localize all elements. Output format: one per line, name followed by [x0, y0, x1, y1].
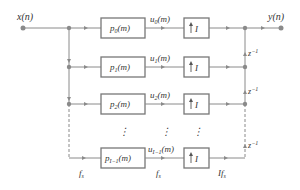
output-node: [279, 26, 284, 31]
svg-text:z−1: z−1: [247, 140, 258, 150]
signal-label: u1(m): [150, 53, 170, 64]
output-label: y(n): [267, 11, 285, 23]
branch-1: p1(m) u1(m) I: [69, 53, 245, 77]
branch-last: pI−1(m) uI−1(m) I: [69, 144, 245, 168]
ellipsis: ⋮: [193, 126, 203, 137]
signal-label: u2(m): [150, 90, 170, 101]
delay-label: z−1: [247, 86, 258, 96]
rate-label-middle: fs: [156, 168, 162, 179]
signal-label: u0(m): [150, 14, 170, 25]
rate-label-input: fs: [79, 168, 85, 179]
svg-text:z−1: z−1: [247, 86, 258, 96]
ellipsis: ⋮: [119, 126, 129, 137]
svg-text:z−1: z−1: [247, 48, 258, 58]
svg-text:p2(m): p2(m): [109, 99, 130, 110]
delay-label: z−1: [247, 140, 258, 150]
polyphase-diagram: x(n) y(n) z−1 z−1 z−1 p0(m) u0(m): [0, 0, 300, 190]
svg-text:p1(m): p1(m): [109, 62, 130, 73]
input-label: x(n): [16, 11, 34, 23]
ellipsis: ⋮: [161, 126, 171, 137]
signal-label: uI−1(m): [148, 144, 174, 155]
rate-label-output: Ifs: [217, 168, 227, 179]
delay-label: z−1: [247, 48, 258, 58]
branch-2: p2(m) u2(m) I: [69, 90, 245, 114]
svg-text:p0(m): p0(m): [109, 23, 130, 34]
branch-0: p0(m) u0(m) I: [69, 14, 245, 38]
